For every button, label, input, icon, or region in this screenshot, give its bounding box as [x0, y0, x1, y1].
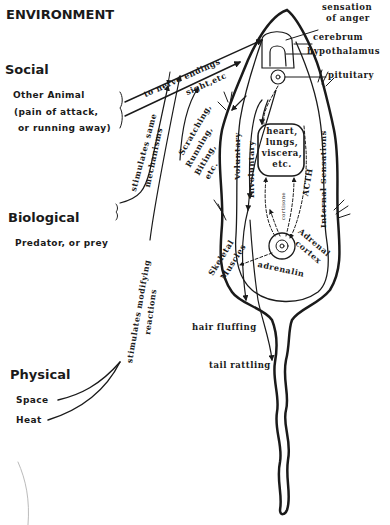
hair-fluffing-label: hair fluffing [192, 322, 257, 332]
social-pain-text: pain of attack, [19, 107, 99, 117]
physical-heat: Heat [16, 415, 42, 425]
sensation-label-2: of anger [326, 13, 370, 23]
biological-predator-prey: Predator, or prey [15, 238, 108, 248]
organs-label: heart, lungs, viscera, etc. [260, 126, 304, 170]
internal-sensations-label: Internal Sensations [318, 130, 328, 228]
social-running-away: or running away) [18, 123, 111, 133]
voluntary-label: Voluntary [232, 132, 242, 180]
pituitary-label: pituitary [328, 70, 374, 80]
physical-space: Space [16, 395, 48, 405]
physical-heading: Physical [10, 367, 70, 382]
social-running-text: or running away [18, 123, 107, 133]
cerebrum-shape [262, 32, 294, 68]
organ-etc: etc. [260, 159, 304, 170]
cortisone-label: cortisone [280, 192, 286, 220]
involuntary-label: Involuntary [246, 141, 256, 198]
tail-rattling-label: tail rattling [209, 360, 271, 370]
sensation-label-1: sensation [322, 2, 372, 12]
organ-viscera: viscera, [260, 148, 304, 159]
organ-heart: heart, [260, 126, 304, 137]
social-pain-of-attack: (pain of attack, [14, 107, 98, 117]
hypothalamus-shape [270, 46, 286, 66]
cerebrum-label: cerebrum [313, 32, 363, 42]
organ-lungs: lungs, [260, 137, 304, 148]
diagram-canvas: ENVIRONMENT Social Other Animal (pain of… [0, 0, 390, 525]
environment-title: ENVIRONMENT [6, 7, 114, 22]
hypothalamus-label: hypothalamus [307, 46, 380, 56]
biological-heading: Biological [8, 210, 79, 225]
social-other-animal: Other Animal [13, 90, 85, 100]
social-heading: Social [5, 62, 49, 77]
